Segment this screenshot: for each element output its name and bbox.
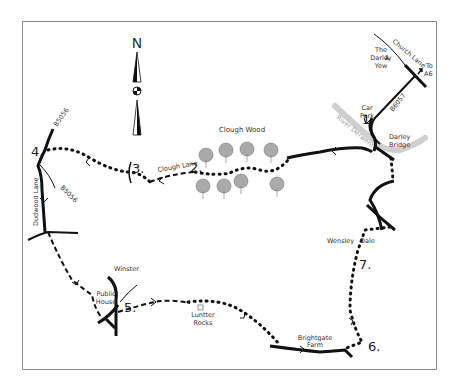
label-darley-bridge-2: Bridge xyxy=(389,141,410,149)
label-darley-yew-1: The xyxy=(374,46,387,54)
label-b6057: B6057 xyxy=(388,92,407,113)
footpath-dashed xyxy=(150,172,195,182)
north-label: N xyxy=(132,35,142,51)
label-car-park-1: Car xyxy=(361,104,373,112)
label-dudwood-lane: Dudwood Lane xyxy=(32,178,40,226)
compass-rose: N xyxy=(132,35,142,135)
footpath-dotted xyxy=(391,158,393,180)
waypoint-7: 7. xyxy=(359,257,371,272)
label-darley-yew-3: Yew xyxy=(374,62,388,70)
arrow-to-a6-icon xyxy=(418,69,422,74)
frame xyxy=(23,22,437,370)
label-brightgate-farm-2: Farm xyxy=(307,341,323,349)
walking-route-map: N The Darley Yew Church Lane To A6 B6057… xyxy=(0,0,456,392)
label-wensley: Wensley xyxy=(327,237,354,245)
tree-icon xyxy=(240,142,254,162)
waypoint-3: 3. xyxy=(132,161,144,176)
tree-icon xyxy=(196,179,210,199)
label-public-house-2: House xyxy=(96,298,116,306)
tree-icon xyxy=(219,143,233,163)
label-b5056-top: B5056 xyxy=(52,106,71,128)
label-clough-wood: Clough Wood xyxy=(219,126,265,134)
label-public-house-1: Public xyxy=(96,290,116,298)
waypoint-4: 4. xyxy=(31,144,43,159)
label-winster: Winster xyxy=(114,265,139,273)
label-b5056-bottom: B5056 xyxy=(59,184,80,205)
winster-road xyxy=(105,318,115,328)
footpath-dotted xyxy=(344,227,390,349)
map-border xyxy=(23,22,208,174)
waypoint-6: 6. xyxy=(368,339,380,354)
tree-icon xyxy=(264,143,278,163)
waypoint-2: 2. xyxy=(190,160,202,175)
label-darley-yew-2: Darley xyxy=(370,54,391,62)
road-east xyxy=(370,181,394,230)
tree-icon xyxy=(217,179,231,199)
waypoint-5: 5. xyxy=(124,300,136,315)
stile-marker xyxy=(129,162,131,183)
tree-icon xyxy=(234,174,248,194)
label-luntter-rocks-2: Rocks xyxy=(194,319,214,327)
footpath-dashed xyxy=(48,232,102,318)
route-arrow-icon xyxy=(86,158,90,166)
route-road-west xyxy=(287,148,372,158)
label-luntter-rocks-1: Luntter xyxy=(191,311,215,319)
waypoint-1: 1. xyxy=(362,112,374,127)
map-outline xyxy=(23,22,208,174)
crossroad xyxy=(28,232,78,240)
label-to-a6-1: To xyxy=(425,62,433,70)
tree-icon xyxy=(270,177,284,197)
lunter-rocks-marker xyxy=(198,305,203,310)
label-to-a6-2: A6 xyxy=(424,70,433,78)
footpath-dotted xyxy=(195,160,288,174)
label-darley-bridge-1: Darley xyxy=(389,133,410,141)
label-dale: Dale xyxy=(360,237,375,245)
